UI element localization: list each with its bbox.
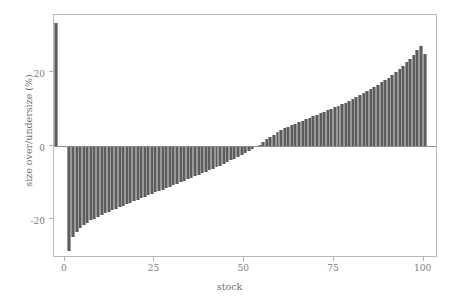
bar (423, 54, 427, 146)
y-tick-label: -20 (31, 216, 46, 226)
x-axis-label: stock (0, 281, 459, 292)
x-tick-label: 75 (327, 263, 338, 273)
x-tick-label: 0 (61, 263, 67, 273)
y-tick-mark (49, 71, 53, 72)
x-tick-mark (423, 257, 424, 261)
y-tick-mark (49, 145, 53, 146)
y-tick-mark (49, 218, 53, 219)
chart-figure: -20020 0255075100 size over/undersize (%… (0, 0, 459, 304)
x-tick-label: 25 (148, 263, 159, 273)
x-tick-mark (243, 257, 244, 261)
y-axis-label: size over/undersize (%) (23, 51, 34, 211)
x-tick-label: 50 (237, 263, 248, 273)
bar-series (54, 15, 436, 256)
y-tick-label: 0 (39, 142, 45, 152)
x-tick-mark (64, 257, 65, 261)
zero-reference-line (54, 146, 436, 147)
x-tick-label: 100 (414, 263, 431, 273)
x-tick-mark (153, 257, 154, 261)
y-tick-label: 20 (34, 69, 45, 79)
x-tick-mark (333, 257, 334, 261)
plot-area (53, 14, 437, 257)
bar (54, 23, 58, 145)
